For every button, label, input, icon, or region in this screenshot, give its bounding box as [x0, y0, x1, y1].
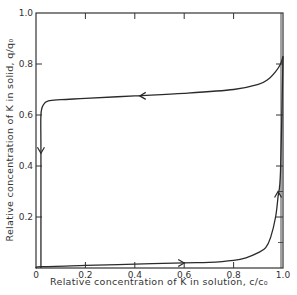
plot-frame	[36, 13, 283, 268]
y-tick-label: 0.4	[19, 161, 34, 171]
y-axis-ticks: 0.20.40.60.81.0	[19, 8, 283, 243]
y-axis-label: Relative concentration of K in solid, q/…	[4, 38, 15, 241]
y-tick-label: 0.8	[19, 59, 34, 69]
y-tick-label: 0.6	[19, 110, 34, 120]
upper-branch-curve	[41, 56, 283, 268]
x-tick-label: 0	[33, 270, 39, 280]
direction-arrows	[37, 92, 281, 266]
x-tick-label: 1.0	[276, 270, 291, 280]
chart: 00.20.40.60.81.0 0.20.40.60.81.0 Relativ…	[0, 0, 297, 295]
x-axis-ticks: 00.20.40.60.81.0	[33, 13, 290, 280]
y-tick-label: 1.0	[19, 8, 34, 18]
x-axis-label: Relative concentration of K in solution,…	[50, 276, 268, 287]
y-tick-label: 0.2	[19, 212, 33, 222]
